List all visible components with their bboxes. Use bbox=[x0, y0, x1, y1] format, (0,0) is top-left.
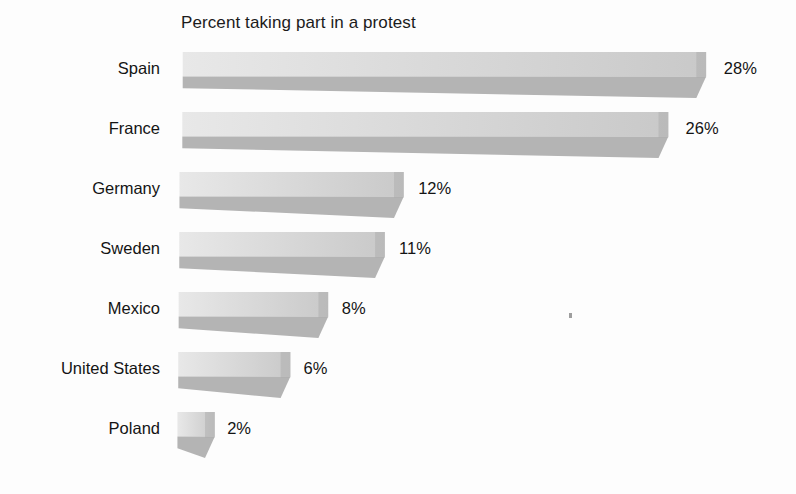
bar-category-label: Mexico bbox=[0, 299, 160, 318]
bar-category-label: France bbox=[0, 119, 160, 138]
bar-row: Germany12% bbox=[0, 172, 796, 218]
scan-artifact-speck bbox=[569, 313, 572, 318]
bar-row: Poland2% bbox=[0, 412, 796, 458]
bar-value-label: 6% bbox=[304, 359, 328, 378]
bar-category-label: Germany bbox=[0, 179, 160, 198]
bar-shape bbox=[177, 112, 676, 158]
bar-shape bbox=[177, 412, 217, 458]
bar-shape bbox=[177, 172, 408, 218]
bar-chart-figure: Percent taking part in a protest Spain28… bbox=[0, 0, 796, 494]
bar-value-label: 8% bbox=[342, 299, 366, 318]
chart-title: Percent taking part in a protest bbox=[181, 13, 416, 33]
bar-row: Spain28% bbox=[0, 52, 796, 98]
bar-row: Sweden11% bbox=[0, 232, 796, 278]
bar-category-label: United States bbox=[0, 359, 160, 378]
bar-shape bbox=[177, 292, 332, 338]
bar-value-label: 26% bbox=[686, 119, 719, 138]
bar-row: United States6% bbox=[0, 352, 796, 398]
bar-category-label: Spain bbox=[0, 59, 160, 78]
bar-shape bbox=[177, 52, 714, 98]
bar-shape bbox=[177, 352, 294, 398]
bar-row: France26% bbox=[0, 112, 796, 158]
bar-value-label: 2% bbox=[227, 419, 251, 438]
bar-value-label: 12% bbox=[418, 179, 451, 198]
bar-row: Mexico8% bbox=[0, 292, 796, 338]
bar-category-label: Sweden bbox=[0, 239, 160, 258]
bar-category-label: Poland bbox=[0, 419, 160, 438]
bar-value-label: 11% bbox=[399, 239, 431, 258]
plot-area: Spain28%France26%Germany12%Sweden11%Mexi… bbox=[0, 52, 796, 494]
bar-value-label: 28% bbox=[724, 59, 757, 78]
bar-shape bbox=[177, 232, 389, 278]
